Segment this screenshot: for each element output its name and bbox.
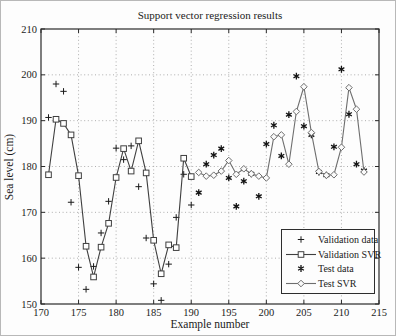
figure: Support vector regression results Sea le… [0, 0, 396, 336]
y-tick-label: 170 [21, 207, 37, 218]
y-tick-label: 210 [21, 24, 37, 35]
series-validation-svr [46, 116, 194, 279]
legend-label: Test SVR [318, 277, 356, 290]
y-tick-label: 200 [21, 69, 37, 80]
legend-label: Test data [318, 262, 354, 275]
x-tick-label: 200 [258, 307, 274, 318]
series-validation-data [45, 81, 194, 304]
legend-entry-test-data: Test data [284, 262, 374, 276]
y-tick-label: 190 [21, 115, 37, 126]
x-tick-label: 190 [183, 307, 199, 318]
legend-entry-test-svr: Test SVR [284, 277, 374, 291]
legend-entry-validation-data: Validation data [284, 232, 374, 246]
square-line-marker-icon [284, 248, 318, 261]
x-tick-label: 185 [146, 307, 162, 318]
x-tick-label: 210 [334, 307, 350, 318]
diamond-line-marker-icon [284, 277, 318, 290]
y-tick-label: 180 [21, 161, 37, 172]
x-tick-label: 175 [71, 307, 87, 318]
y-tick-label: 160 [21, 253, 37, 264]
asterisk-marker-icon [284, 262, 318, 275]
legend-label: Validation SVR [318, 248, 381, 261]
y-tick-label: 150 [21, 299, 37, 310]
plus-marker-icon [284, 233, 318, 246]
legend-entry-validation-svr: Validation SVR [284, 247, 374, 261]
x-axis-label: Example number [41, 318, 379, 330]
legend-label: Validation data [318, 233, 378, 246]
x-tick-label: 215 [371, 307, 387, 318]
x-tick-label: 205 [296, 307, 312, 318]
x-tick-label: 195 [221, 307, 237, 318]
x-tick-label: 180 [108, 307, 124, 318]
legend: Validation data Validation SVR Test data… [281, 229, 375, 294]
